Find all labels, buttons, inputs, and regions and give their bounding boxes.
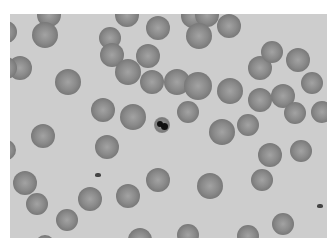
red-blood-cell <box>136 44 160 68</box>
red-blood-cell <box>197 173 223 199</box>
red-blood-cell <box>251 169 273 191</box>
red-blood-cell <box>31 124 55 148</box>
red-blood-cell <box>146 16 170 40</box>
red-blood-cell <box>217 14 241 38</box>
red-blood-cell <box>146 168 170 192</box>
red-blood-cell <box>311 101 327 123</box>
debris-particle <box>95 173 101 177</box>
red-blood-cell <box>115 14 139 27</box>
red-blood-cell <box>32 22 58 48</box>
red-blood-cell <box>290 140 312 162</box>
red-blood-cell <box>186 23 212 49</box>
red-blood-cell <box>13 171 37 195</box>
red-blood-cell <box>258 143 282 167</box>
nucleus-lobe <box>161 123 168 130</box>
red-blood-cell <box>115 59 141 85</box>
red-blood-cell <box>55 69 81 95</box>
red-blood-cell <box>95 135 119 159</box>
red-blood-cell <box>261 41 283 63</box>
red-blood-cell <box>177 224 199 238</box>
red-blood-cell <box>78 187 102 211</box>
red-blood-cell <box>217 78 243 104</box>
red-blood-cell <box>177 101 199 123</box>
red-blood-cell <box>248 88 272 112</box>
red-blood-cell <box>140 70 164 94</box>
red-blood-cell <box>237 114 259 136</box>
red-blood-cell <box>91 98 115 122</box>
red-blood-cell <box>10 21 17 43</box>
red-blood-cell <box>26 193 48 215</box>
red-blood-cell <box>56 209 78 231</box>
red-blood-cell <box>209 119 235 145</box>
red-blood-cell <box>286 48 310 72</box>
red-blood-cell <box>35 235 55 238</box>
red-blood-cell <box>284 102 306 124</box>
debris-particle <box>317 204 323 208</box>
red-blood-cell <box>128 228 152 238</box>
red-blood-cell <box>237 225 259 238</box>
red-blood-cell <box>116 184 140 208</box>
red-blood-cell <box>184 72 212 100</box>
red-blood-cell <box>272 213 294 235</box>
red-blood-cell <box>10 140 16 160</box>
red-blood-cell <box>301 72 323 94</box>
red-blood-cell <box>120 104 146 130</box>
micrograph <box>10 14 327 238</box>
